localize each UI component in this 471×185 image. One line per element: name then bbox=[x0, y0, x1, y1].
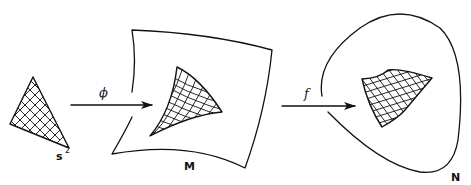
manifold-n bbox=[321, 14, 460, 172]
m-patch-grid bbox=[124, 58, 232, 154]
m-label: M bbox=[184, 160, 195, 173]
arrow-f: f bbox=[282, 86, 355, 106]
n-patch-outline bbox=[362, 70, 432, 127]
s2-grid bbox=[0, 32, 102, 180]
s2-superscript: 2 bbox=[65, 146, 70, 155]
n-patch-grid bbox=[341, 55, 456, 139]
arrow-phi: ϕ bbox=[71, 85, 152, 105]
n-label: N bbox=[451, 171, 460, 184]
s2-patch bbox=[0, 32, 102, 180]
n-patch bbox=[341, 55, 456, 139]
s2-outline bbox=[10, 77, 69, 148]
f-label: f bbox=[303, 86, 311, 101]
diagram-canvas: s 2 ϕ bbox=[0, 0, 471, 185]
s2-label: s bbox=[56, 150, 63, 163]
m-patch bbox=[124, 58, 232, 154]
phi-label: ϕ bbox=[99, 85, 108, 100]
n-outline bbox=[321, 14, 460, 172]
